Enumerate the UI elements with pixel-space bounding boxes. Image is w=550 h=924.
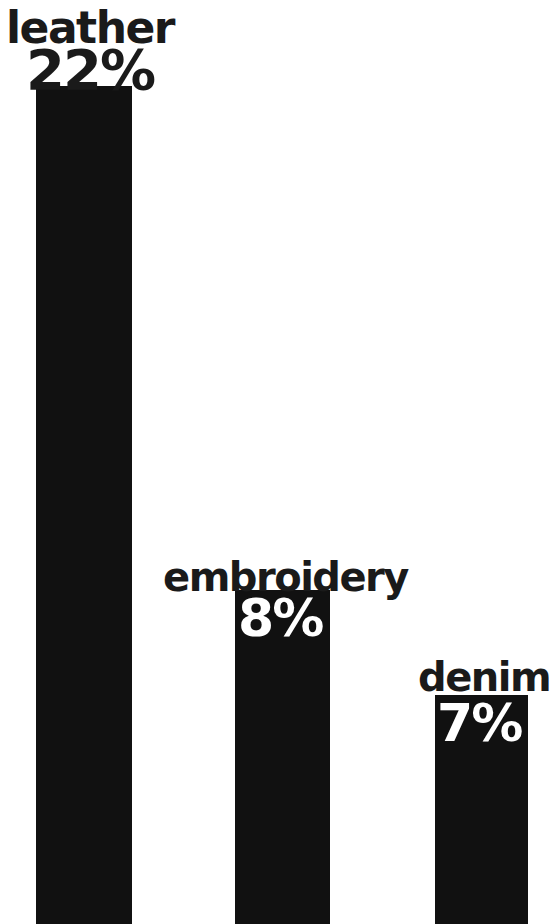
bar-leather <box>36 86 132 924</box>
bar-value-label-leather: 22% <box>26 42 154 98</box>
bar-value-label-embroidery: 8% <box>238 592 322 644</box>
bar-category-label-denim: denim <box>418 657 550 697</box>
bar-chart: leather 22% embroidery 8% denim 7% <box>0 0 550 924</box>
bar-value-label-denim: 7% <box>437 697 521 749</box>
